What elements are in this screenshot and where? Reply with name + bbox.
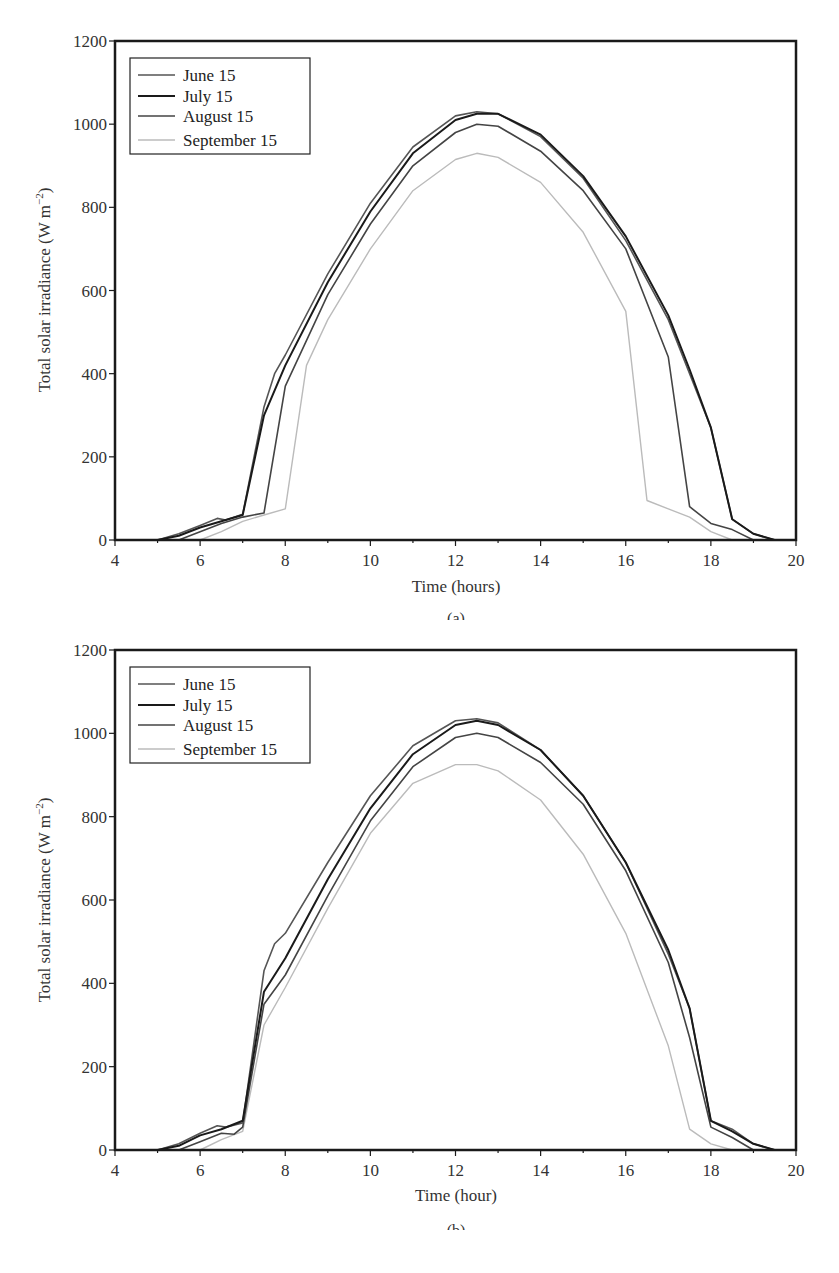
x-tick-label: 18 <box>702 1161 719 1180</box>
y-tick-label: 1200 <box>73 32 107 51</box>
y-tick-label: 600 <box>82 891 108 910</box>
series-line-september-15 <box>200 153 732 540</box>
y-tick-label: 800 <box>82 808 108 827</box>
y-tick-label: 0 <box>99 531 108 550</box>
x-tick-label: 6 <box>196 551 205 570</box>
y-tick-label: 400 <box>82 974 108 993</box>
y-tick-label: 1000 <box>73 724 107 743</box>
series-line-september-15 <box>200 765 732 1150</box>
x-axis: 468101214161820 <box>111 540 805 570</box>
y-tick-label: 200 <box>82 448 108 467</box>
legend-label: June 15 <box>183 66 235 85</box>
chart-panel-a: 020040060080010001200 468101214161820 Ti… <box>0 0 839 620</box>
y-tick-label: 0 <box>99 1141 108 1160</box>
x-axis-title: Time (hours) <box>412 577 501 596</box>
x-tick-label: 12 <box>447 551 464 570</box>
x-tick-label: 14 <box>532 1161 550 1180</box>
chart-panel-b: 020040060080010001200 468101214161820 Ti… <box>0 610 839 1230</box>
legend-label: June 15 <box>183 675 235 694</box>
x-tick-label: 4 <box>111 551 120 570</box>
x-axis: 468101214161820 <box>111 1150 805 1180</box>
series-line-august-15 <box>179 733 754 1150</box>
x-tick-label: 12 <box>447 1161 464 1180</box>
y-axis: 020040060080010001200 <box>73 641 115 1160</box>
legend-label: August 15 <box>183 107 253 126</box>
x-tick-label: 18 <box>702 551 719 570</box>
y-axis: 020040060080010001200 <box>73 32 115 550</box>
legend-label: July 15 <box>183 87 233 106</box>
legend-label: September 15 <box>183 740 277 759</box>
x-tick-label: 4 <box>111 1161 120 1180</box>
x-tick-label: 10 <box>362 551 379 570</box>
x-tick-label: 16 <box>617 1161 634 1180</box>
y-axis-title: Total solar irradiance (W m−2) <box>33 798 54 1003</box>
y-axis-title: Total solar irradiance (W m−2) <box>33 188 54 393</box>
x-tick-label: 20 <box>788 1161 805 1180</box>
x-tick-label: 20 <box>788 551 805 570</box>
x-axis-title: Time (hour) <box>415 1186 497 1205</box>
legend-label: September 15 <box>183 131 277 150</box>
legend: June 15July 15August 15September 15 <box>130 58 310 154</box>
x-tick-label: 8 <box>281 551 290 570</box>
x-tick-label: 10 <box>362 1161 379 1180</box>
chart-b-svg: 020040060080010001200 468101214161820 Ti… <box>0 610 839 1230</box>
y-tick-label: 400 <box>82 365 108 384</box>
legend-label: July 15 <box>183 696 233 715</box>
x-tick-label: 16 <box>617 551 634 570</box>
x-tick-label: 14 <box>532 551 550 570</box>
chart-a-svg: 020040060080010001200 468101214161820 Ti… <box>0 0 839 620</box>
y-tick-label: 200 <box>82 1058 108 1077</box>
panel-caption: (b) <box>447 1222 466 1230</box>
y-tick-label: 800 <box>82 198 108 217</box>
series-line-july-15 <box>158 114 775 540</box>
y-tick-label: 600 <box>82 282 108 301</box>
legend-label: August 15 <box>183 716 253 735</box>
y-tick-label: 1200 <box>73 641 107 660</box>
x-tick-label: 6 <box>196 1161 205 1180</box>
y-tick-label: 1000 <box>73 115 107 134</box>
x-tick-label: 8 <box>281 1161 290 1180</box>
series-line-august-15 <box>179 124 754 540</box>
legend: June 15July 15August 15September 15 <box>130 667 310 763</box>
